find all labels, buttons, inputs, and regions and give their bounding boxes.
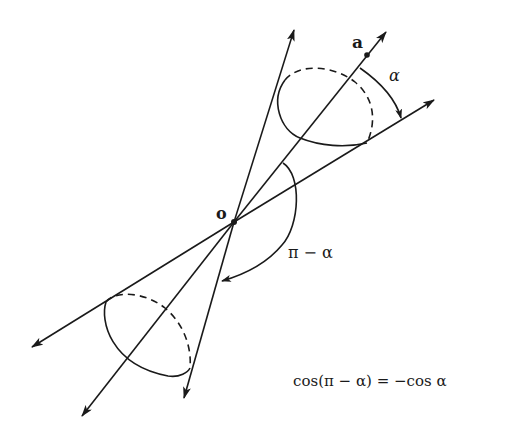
origin-dot (231, 219, 237, 225)
origin-label: o (216, 204, 227, 223)
upper-ellipse-front (278, 80, 367, 146)
generator-2-upper-ray (234, 100, 434, 222)
point-a-label: a (352, 32, 363, 52)
double-cone-diagram: a o α π − α cos(π − α) = −cos α (0, 0, 507, 431)
axis-upper-ray (234, 32, 386, 222)
diagram-drawing (0, 0, 507, 431)
alpha-angle-label: α (389, 66, 400, 85)
pi-minus-alpha-label: π − α (288, 243, 333, 262)
lower-ellipse-front (104, 302, 190, 376)
cosine-identity-label: cos(π − α) = −cos α (293, 372, 447, 390)
point-a-dot (364, 52, 370, 58)
upper-ellipse-back (285, 68, 373, 143)
